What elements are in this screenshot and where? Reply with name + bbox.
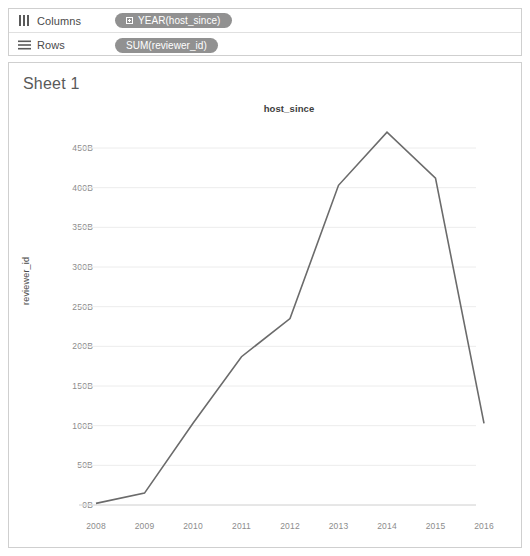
columns-icon bbox=[18, 15, 31, 26]
chart-plot-area[interactable]: reviewer_id 0B50B100B150B200B250B300B350… bbox=[9, 63, 523, 549]
columns-shelf[interactable]: Columns YEAR(host_since) bbox=[9, 9, 521, 33]
rows-pill-label: SUM(reviewer_id) bbox=[126, 40, 207, 51]
gridlines bbox=[79, 148, 476, 505]
shelf-area: Columns YEAR(host_since) Rows SUM(review… bbox=[8, 8, 522, 56]
columns-shelf-label: Columns bbox=[37, 15, 81, 27]
rows-shelf[interactable]: Rows SUM(reviewer_id) bbox=[9, 33, 521, 57]
rows-pill-sum-reviewer-id[interactable]: SUM(reviewer_id) bbox=[115, 38, 218, 53]
columns-pill-year-host-since[interactable]: YEAR(host_since) bbox=[115, 13, 232, 28]
rows-icon bbox=[18, 40, 31, 51]
rows-shelf-label: Rows bbox=[37, 39, 65, 51]
columns-pill-label: YEAR(host_since) bbox=[138, 15, 221, 26]
line-chart-svg bbox=[9, 63, 523, 549]
expand-plus-icon[interactable] bbox=[126, 17, 133, 24]
worksheet-panel: Sheet 1 host_since reviewer_id 0B50B100B… bbox=[8, 62, 522, 548]
